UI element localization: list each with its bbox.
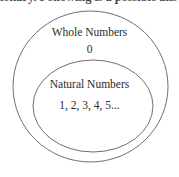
inner-set-members: 1, 2, 3, 4, 5... <box>0 99 179 111</box>
outer-set-label: Whole Numbers <box>0 26 179 38</box>
diagram-canvas: ionary. Following is a possible ans Whol… <box>0 0 179 177</box>
outer-set-members: 0 <box>0 43 179 55</box>
inner-set-label: Natural Numbers <box>0 78 179 90</box>
